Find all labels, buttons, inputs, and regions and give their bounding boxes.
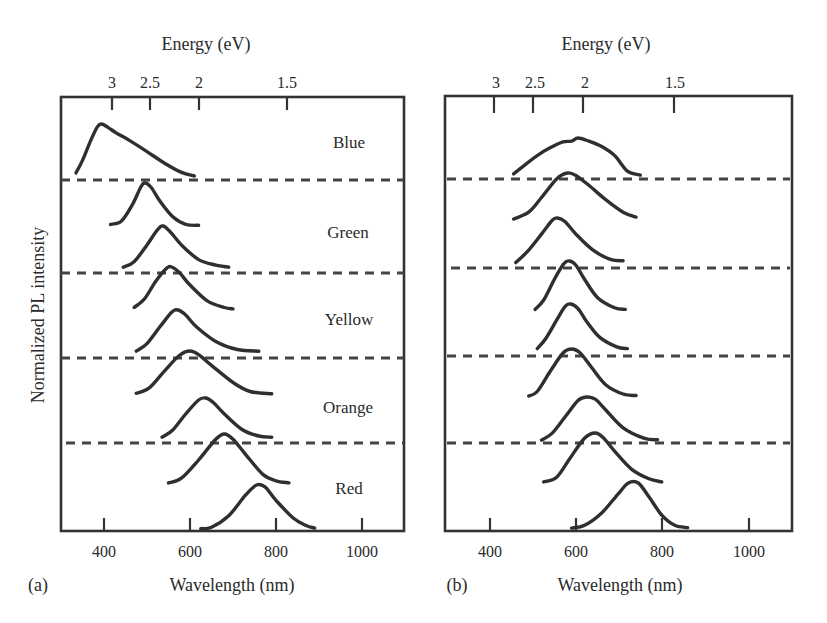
panel-b-wavelength-ticks [490,518,749,531]
pl-spectrum-curve [514,138,641,175]
panel-a-energy-axis-title: Energy (eV) [161,34,250,55]
panel-b-curves [514,138,688,528]
energy-tick-label: 2 [581,74,589,91]
pl-spectrum-curve [111,183,199,225]
pl-spectrum-curve [123,226,228,267]
panel-a-energy-tick-labels: 3 2.5 2 1.5 [108,74,297,91]
panel-b-energy-tick-labels: 3 2.5 2 1.5 [492,74,685,91]
pl-spectrum-curve [544,433,662,482]
y-axis-title: Normalized PL intensity [28,227,48,403]
group-label-green: Green [327,223,369,242]
energy-tick-label: 1.5 [277,74,297,91]
pl-spectrum-curve [136,310,258,352]
wavelength-tick-label: 800 [264,543,288,560]
pl-spectra-figure: Energy (eV) 3 2.5 2 1.5 [0,0,827,623]
panel-b-wavelength-tick-labels: 400 600 800 1000 [478,543,765,560]
panel-a-energy-ticks [112,97,287,110]
wavelength-tick-label: 800 [650,543,674,560]
panel-b-separators [447,179,790,443]
energy-tick-label: 2 [195,74,203,91]
pl-spectrum-curve [136,351,271,394]
pl-spectrum-curve [201,484,315,528]
pl-spectrum-curve [162,398,272,438]
group-label-orange: Orange [323,398,373,417]
panel-a-wavelength-tick-labels: 400 600 800 1000 [92,543,378,560]
panel-a-curves [76,124,315,529]
panel-a-wavelength-axis-title: Wavelength (nm) [169,575,294,596]
group-label-red: Red [335,479,363,498]
pl-spectrum-curve [76,124,194,176]
group-label-blue: Blue [333,133,365,152]
energy-tick-label: 2.5 [525,74,545,91]
panel-a-label: (a) [28,575,48,596]
pl-spectrum-curve [516,218,623,263]
wavelength-tick-label: 1000 [346,543,378,560]
wavelength-tick-label: 600 [564,543,588,560]
panel-b: Energy (eV) 3 2.5 2 1.5 40 [445,34,792,596]
wavelength-tick-label: 400 [92,543,116,560]
pl-spectrum-curve [572,481,688,528]
group-label-yellow: Yellow [325,310,374,329]
energy-tick-label: 1.5 [665,74,685,91]
pl-spectrum-curve [537,304,627,349]
panel-a: Energy (eV) 3 2.5 2 1.5 [28,34,404,596]
energy-tick-label: 2.5 [140,74,160,91]
panel-b-label: (b) [447,575,468,596]
pl-spectrum-curve [169,434,289,483]
wavelength-tick-label: 400 [478,543,502,560]
panel-a-wavelength-ticks [104,518,362,531]
panel-b-wavelength-axis-title: Wavelength (nm) [557,575,682,596]
energy-tick-label: 3 [108,74,116,91]
panel-b-energy-ticks [494,96,674,113]
panel-b-energy-axis-title: Energy (eV) [561,34,650,55]
wavelength-tick-label: 600 [178,543,202,560]
wavelength-tick-label: 1000 [733,543,765,560]
energy-tick-label: 3 [492,74,500,91]
